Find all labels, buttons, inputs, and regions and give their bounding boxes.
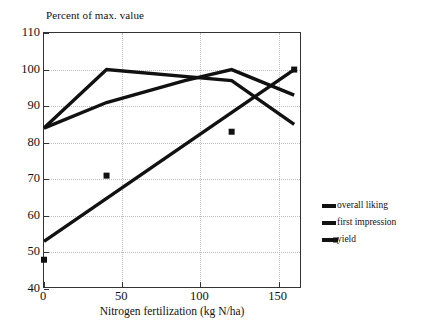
y-axis-tick-mark [44, 106, 49, 107]
chart-figure: Percent of max. value 405060708090100110… [0, 0, 435, 330]
legend-item-label: first impression [337, 217, 396, 228]
y-axis-tick-label: 60 [6, 207, 40, 222]
series-marker-yield [41, 257, 47, 263]
data-series-layer [44, 33, 302, 289]
y-axis-tick-mark [44, 70, 49, 71]
legend-item-label: yield [337, 234, 356, 245]
x-axis-tick-mark [279, 282, 280, 287]
x-axis: 050100150 [43, 289, 301, 305]
y-axis-tick-mark [44, 216, 49, 217]
x-axis-tick-mark [44, 282, 45, 287]
y-axis: 405060708090100110 [0, 32, 40, 288]
x-axis-tick-label: 100 [190, 289, 209, 304]
x-axis-tick-label: 50 [115, 289, 128, 304]
series-marker-yield [229, 129, 235, 135]
y-axis-tick-label: 90 [6, 98, 40, 113]
y-axis-tick-label: 70 [6, 171, 40, 186]
y-axis-tick-label: 100 [6, 61, 40, 76]
y-axis-tick-mark [44, 179, 49, 180]
series-marker-yield [291, 67, 297, 73]
x-axis-tick-mark [200, 282, 201, 287]
y-axis-tick-mark [44, 143, 49, 144]
plot-area [43, 32, 301, 288]
legend-item[interactable]: yield [322, 231, 434, 248]
legend-item[interactable]: first impression [322, 214, 434, 231]
legend-item-label: overall liking [337, 200, 388, 211]
series-line-yield [44, 70, 294, 242]
x-axis-tick-label: 150 [268, 289, 287, 304]
x-axis-title: Nitrogen fertilization (kg N/ha) [43, 305, 301, 317]
legend-item[interactable]: overall liking [322, 197, 434, 214]
legend-line-marker-icon [322, 238, 336, 242]
y-axis-tick-mark [44, 252, 49, 253]
y-axis-tick-label: 80 [6, 134, 40, 149]
x-axis-tick-mark [122, 282, 123, 287]
y-axis-tick-label: 50 [6, 244, 40, 259]
legend-line-icon [322, 221, 336, 225]
y-axis-tick-mark [44, 33, 49, 34]
chart-legend: overall likingfirst impressionyield [322, 197, 434, 248]
legend-line-icon [322, 204, 336, 208]
x-axis-tick-label: 0 [40, 289, 46, 304]
y-axis-tick-label: 40 [6, 281, 40, 296]
series-marker-yield [104, 173, 110, 179]
chart-title: Percent of max. value [46, 9, 144, 21]
y-axis-tick-label: 110 [6, 25, 40, 40]
